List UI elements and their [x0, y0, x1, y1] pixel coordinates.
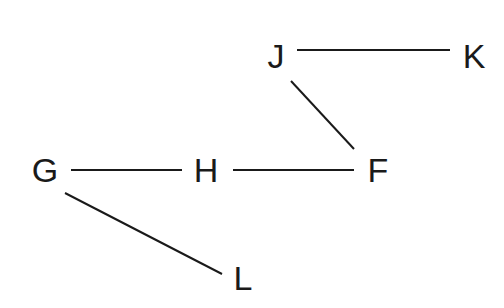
node-f: F: [368, 153, 389, 187]
node-k: K: [463, 39, 486, 73]
edge-j-f: [291, 81, 354, 149]
node-j: J: [268, 39, 285, 73]
node-g: G: [32, 153, 58, 187]
edge-g-l: [65, 193, 222, 274]
node-h: H: [194, 153, 219, 187]
node-l: L: [234, 261, 253, 295]
